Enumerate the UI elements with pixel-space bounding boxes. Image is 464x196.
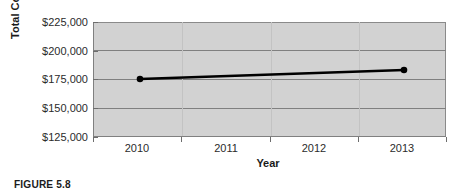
figure-container: $225,000 $200,000 $175,000 $150,000 $125… — [0, 0, 464, 196]
series-layer — [0, 0, 464, 165]
chart: $225,000 $200,000 $175,000 $150,000 $125… — [0, 0, 464, 165]
data-point-2013 — [401, 67, 408, 74]
figure-caption: FIGURE 5.8 — [14, 178, 71, 190]
data-point-2010 — [137, 76, 144, 83]
series-line-total-compensation — [140, 70, 404, 79]
